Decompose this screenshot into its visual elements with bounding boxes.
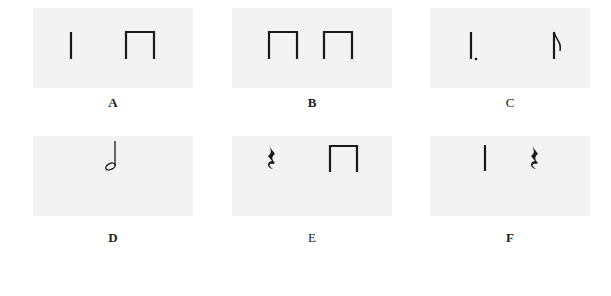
beamed-eighth-pair-icon	[324, 32, 352, 59]
quarter-rest-icon	[531, 146, 538, 169]
panel-f-notation	[430, 136, 590, 216]
panel-c	[430, 8, 590, 88]
panel-a-notation	[33, 8, 193, 88]
panel-e-label: E	[232, 230, 392, 246]
panel-b-label: B	[232, 95, 392, 111]
panel-a-label: A	[33, 95, 193, 111]
panel-b	[232, 8, 392, 88]
panel-d-notation	[33, 136, 193, 216]
panel-c-label: C	[430, 95, 590, 111]
half-note-icon	[105, 141, 117, 171]
panel-f-label: F	[430, 230, 590, 246]
panel-e	[232, 136, 392, 216]
eighth-note-stem-icon	[554, 32, 560, 59]
panel-e-notation	[232, 136, 392, 216]
panel-b-notation	[232, 8, 392, 88]
dotted-quarter-stem-icon	[471, 32, 477, 60]
beamed-eighth-pair-icon	[269, 32, 297, 59]
panel-c-notation	[430, 8, 590, 88]
panel-f	[430, 136, 590, 216]
beamed-eighth-pair-icon	[126, 32, 154, 59]
quarter-rest-icon	[268, 146, 275, 169]
panel-d-label: D	[33, 230, 193, 246]
beamed-eighth-pair-icon	[330, 146, 357, 172]
panel-d	[33, 136, 193, 216]
panel-a	[33, 8, 193, 88]
